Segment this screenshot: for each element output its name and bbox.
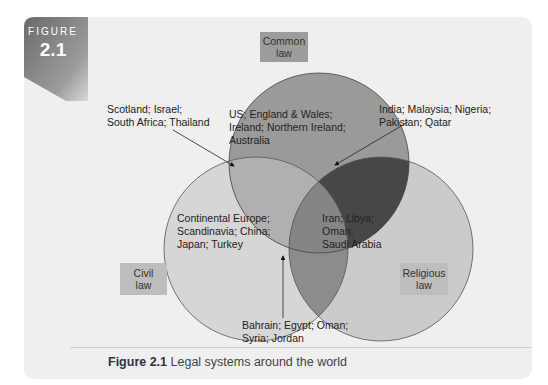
region-common-religious: India; Malaysia; Nigeria; Pakistan; Qata… [379, 103, 491, 129]
region-text: Oman; [322, 225, 382, 238]
region-text: Saudi Arabia [322, 238, 382, 251]
region-text: Syria; Jordan [242, 332, 348, 345]
region-religious-only: Iran; Libya; Oman; Saudi Arabia [322, 212, 382, 251]
common-law-label-line2: law [263, 47, 306, 59]
region-text: Japan; Turkey [177, 238, 270, 251]
region-text: Scotland; Israel; [107, 103, 210, 116]
civil-law-label-line1: Civil [134, 267, 154, 279]
common-law-label-line1: Common [263, 35, 306, 47]
civil-law-label-box: Civillaw [120, 263, 167, 295]
region-civil-religious: Bahrain; Egypt; Oman; Syria; Jordan [242, 319, 348, 345]
region-text: India; Malaysia; Nigeria; [379, 103, 491, 116]
caption-divider [70, 347, 532, 348]
region-text: Ireland; Northern Ireland; [229, 121, 346, 134]
religious-law-label-line2: law [402, 279, 445, 291]
religious-law-label-box: Religiouslaw [400, 263, 448, 295]
figure-caption: Figure 2.1 Legal systems around the worl… [108, 355, 347, 369]
region-text: Scandinavia; China; [177, 225, 270, 238]
region-text: South Africa; Thailand [107, 116, 210, 129]
common-law-label-box: Commonlaw [260, 32, 308, 62]
region-common-only: US; England & Wales; Ireland; Northern I… [229, 108, 346, 147]
region-text: Iran; Libya; [322, 212, 382, 225]
region-text: US; England & Wales; [229, 108, 346, 121]
arrow-common-civil [173, 130, 234, 166]
caption-text: Legal systems around the world [171, 355, 347, 369]
region-text: Continental Europe; [177, 212, 270, 225]
region-civil-only: Continental Europe; Scandinavia; China; … [177, 212, 270, 251]
region-common-civil: Scotland; Israel; South Africa; Thailand [107, 103, 210, 129]
region-text: Australia [229, 134, 346, 147]
region-text: Bahrain; Egypt; Oman; [242, 319, 348, 332]
caption-prefix: Figure 2.1 [108, 355, 167, 369]
religious-law-label-line1: Religious [402, 267, 445, 279]
civil-law-label-line2: law [134, 279, 154, 291]
region-text: Pakistan; Qatar [379, 116, 491, 129]
